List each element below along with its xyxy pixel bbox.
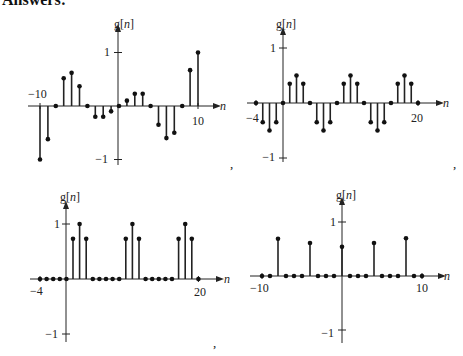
stem-marker — [335, 101, 340, 106]
stem-marker — [301, 81, 306, 86]
stem-marker — [316, 274, 321, 279]
x-tick-label: −4 — [246, 111, 259, 125]
stem-marker — [375, 128, 380, 133]
stem-marker — [130, 222, 135, 227]
stem-marker — [382, 120, 387, 125]
stem-marker — [164, 136, 169, 141]
x-axis-label: n — [444, 269, 450, 283]
stem-marker — [284, 274, 289, 279]
stem-marker — [340, 245, 345, 250]
stem-marker — [267, 128, 272, 133]
stem-marker — [156, 122, 161, 127]
stem-plot-2: g[n]n−4201−1 — [246, 17, 449, 164]
stem-marker — [328, 120, 333, 125]
x-axis-label: n — [443, 96, 449, 110]
y-axis-label: g[n] — [276, 17, 296, 31]
stem-marker — [183, 222, 188, 227]
stem-marker — [300, 274, 305, 279]
stem-marker — [308, 101, 313, 106]
stem-marker — [380, 274, 385, 279]
stem-marker — [294, 73, 299, 78]
stem-marker — [254, 101, 259, 106]
stem-marker — [150, 277, 155, 282]
stem-marker — [402, 73, 407, 78]
y-axis-label: g[n] — [336, 188, 356, 202]
stem-marker — [332, 274, 337, 279]
stem-marker — [188, 68, 193, 73]
x-tick-label: −10 — [250, 281, 269, 295]
stem-marker — [281, 101, 286, 106]
stem-marker — [170, 277, 175, 282]
stem-marker — [314, 120, 319, 125]
stem-marker — [44, 277, 49, 282]
stem-marker — [341, 81, 346, 86]
stem-marker — [308, 241, 313, 246]
stem-marker — [163, 277, 168, 282]
stem-marker — [104, 277, 109, 282]
stem-marker — [324, 274, 329, 279]
stem-marker — [93, 114, 98, 119]
stem-marker — [125, 98, 130, 103]
stem-marker — [51, 277, 56, 282]
stem-marker — [77, 84, 82, 89]
stem-marker — [148, 104, 153, 109]
stem-marker — [124, 237, 129, 242]
y-tick-label: −1 — [262, 150, 275, 164]
stem-marker — [321, 128, 326, 133]
stem-marker — [348, 274, 353, 279]
separator-comma-1: , — [230, 156, 233, 172]
y-tick-label: 1 — [330, 215, 336, 229]
separator-comma-3: , — [213, 335, 216, 351]
stem-marker — [71, 237, 76, 242]
stem-marker — [176, 237, 181, 242]
stem-marker — [140, 91, 145, 96]
stem-marker — [388, 274, 393, 279]
separator-comma-2: , — [453, 156, 456, 172]
x-axis-label: n — [224, 272, 230, 286]
x-tick-label: 10 — [192, 114, 204, 128]
x-tick-label: 20 — [194, 285, 206, 299]
y-tick-label: 1 — [104, 45, 110, 59]
stem-marker — [190, 237, 195, 242]
x-axis-label: n — [220, 99, 226, 113]
stem-marker — [287, 81, 292, 86]
stem-marker — [38, 277, 43, 282]
stem-plot-4: g[n]n−10101−1 — [250, 188, 450, 343]
y-axis-label: g[n] — [60, 190, 80, 204]
stem-marker — [85, 104, 90, 109]
stem-marker — [69, 71, 74, 76]
stem-marker — [157, 277, 162, 282]
stem-marker — [372, 241, 377, 246]
stem-marker — [362, 101, 367, 106]
stem-marker — [404, 236, 409, 241]
stem-marker — [38, 157, 43, 162]
stem-marker — [77, 222, 82, 227]
x-tick-label: −4 — [30, 284, 43, 298]
stem-marker — [97, 277, 102, 282]
stem-marker — [260, 274, 265, 279]
stem-marker — [91, 277, 96, 282]
stem-marker — [395, 81, 400, 86]
stem-marker — [355, 81, 360, 86]
stem-plot-1: g[n]n−10101−1 — [28, 17, 226, 166]
x-axis-arrow-icon — [216, 276, 224, 282]
stem-marker — [46, 137, 51, 142]
stem-plots: g[n]n−10101−1g[n]n−4201−1g[n]n−4201−1g[n… — [0, 0, 463, 356]
stem-marker — [409, 81, 414, 86]
stem-marker — [196, 277, 201, 282]
stem-marker — [117, 104, 122, 109]
stem-marker — [268, 274, 273, 279]
stem-marker — [412, 274, 417, 279]
x-tick-label: −10 — [28, 87, 47, 101]
stem-marker — [396, 274, 401, 279]
stem-marker — [292, 274, 297, 279]
stem-marker — [54, 104, 59, 109]
stem-marker — [109, 109, 114, 114]
stem-plot-3: g[n]n−4201−1 — [30, 190, 230, 342]
stem-marker — [348, 73, 353, 78]
y-tick-label: 1 — [270, 41, 276, 55]
stem-marker — [143, 277, 148, 282]
stem-marker — [368, 120, 373, 125]
stem-marker — [61, 76, 66, 81]
x-tick-label: 10 — [416, 281, 428, 295]
